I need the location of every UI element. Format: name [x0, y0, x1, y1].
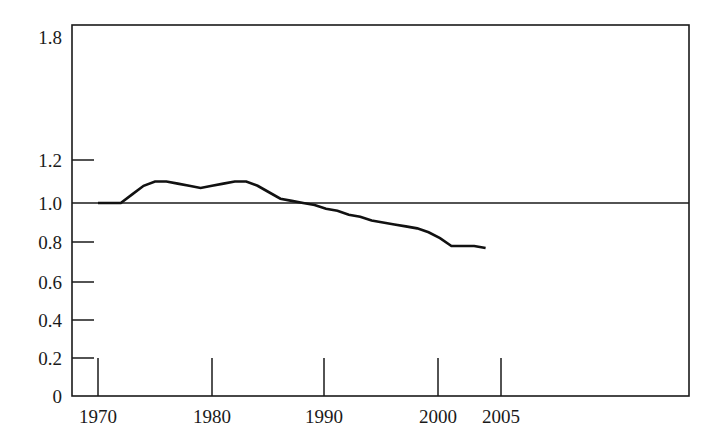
y-label-0.6: 0.6 — [38, 272, 62, 293]
x-label-1980: 1980 — [193, 406, 231, 427]
plot-frame — [72, 25, 689, 396]
line-chart: 1.8 1.2 1.0 0.8 0.6 0.4 0.2 0 1970 1980 … — [0, 0, 722, 442]
x-label-2000: 2000 — [419, 406, 457, 427]
data-series-line — [98, 182, 486, 249]
y-axis-labels: 1.8 1.2 1.0 0.8 0.6 0.4 0.2 0 — [38, 27, 62, 407]
y-label-0.2: 0.2 — [38, 348, 62, 369]
x-label-2005: 2005 — [482, 406, 520, 427]
y-label-0.8: 0.8 — [38, 232, 62, 253]
x-axis-labels: 1970 1980 1990 2000 2005 — [79, 406, 520, 427]
y-axis-ticks — [72, 160, 94, 358]
y-label-0.4: 0.4 — [38, 310, 62, 331]
y-label-1.8: 1.8 — [38, 27, 62, 48]
x-axis-ticks — [98, 358, 501, 396]
y-label-1.0: 1.0 — [38, 193, 62, 214]
x-label-1990: 1990 — [305, 406, 343, 427]
x-label-1970: 1970 — [79, 406, 117, 427]
y-label-0: 0 — [53, 386, 63, 407]
chart-container: 1.8 1.2 1.0 0.8 0.6 0.4 0.2 0 1970 1980 … — [0, 0, 722, 442]
y-label-1.2: 1.2 — [38, 150, 62, 171]
